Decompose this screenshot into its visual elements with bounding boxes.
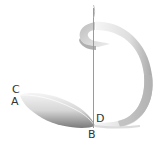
label-b: B xyxy=(88,129,96,140)
label-a: A xyxy=(11,96,19,107)
label-d: D xyxy=(96,113,104,124)
ribbon-diagram xyxy=(0,0,166,153)
label-c: C xyxy=(12,84,20,95)
